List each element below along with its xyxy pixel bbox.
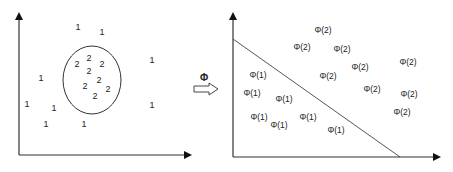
mapped-class-2-point: Φ(2)	[363, 84, 380, 94]
class-1-point: 1	[43, 119, 48, 129]
class-1-point: 1	[51, 103, 56, 113]
mapped-class-1-point: Φ(1)	[270, 120, 287, 130]
mapped-class-1-point: Φ(1)	[243, 88, 260, 98]
mapped-class-2-point: Φ(2)	[393, 107, 410, 117]
mapped-class-1-point: Φ(1)	[275, 94, 292, 104]
mapped-class-2-point: Φ(2)	[319, 71, 336, 81]
mapped-class-1-point: Φ(1)	[250, 112, 267, 122]
class-1-point: 1	[38, 73, 43, 83]
class-2-point: 2	[86, 53, 91, 63]
feature-space-panel: Φ(1)Φ(1)Φ(1)Φ(1)Φ(1)Φ(1)Φ(1)Φ(2)Φ(2)Φ(2)…	[233, 14, 439, 157]
left-points-group: 11111111122222222	[24, 22, 154, 129]
class-1-point: 1	[24, 99, 29, 109]
input-space-panel: 11111111122222222	[19, 14, 190, 155]
class-2-point: 2	[82, 81, 87, 91]
class-1-point: 1	[99, 27, 104, 37]
mapped-class-2-point: Φ(2)	[333, 44, 350, 54]
class-1-point: 1	[75, 22, 80, 32]
class-2-point: 2	[99, 59, 104, 69]
phi-transform-arrow: Φ	[194, 72, 218, 95]
mapped-class-1-point: Φ(1)	[299, 112, 316, 122]
class-2-point: 2	[92, 91, 97, 101]
mapped-class-1-point: Φ(1)	[327, 125, 344, 135]
class-2-point: 2	[74, 59, 79, 69]
mapped-class-2-point: Φ(2)	[351, 62, 368, 72]
right-points-group: Φ(1)Φ(1)Φ(1)Φ(1)Φ(1)Φ(1)Φ(1)Φ(2)Φ(2)Φ(2)…	[243, 25, 417, 135]
mapped-class-2-point: Φ(2)	[293, 42, 310, 52]
class-1-point: 1	[149, 55, 154, 65]
class-2-point: 2	[105, 84, 110, 94]
nonlinear-boundary-ellipse	[63, 46, 121, 114]
kernel-mapping-diagram: 11111111122222222 Φ Φ(1)Φ(1)Φ(1)Φ(1)Φ(1)…	[0, 0, 453, 172]
phi-label: Φ	[200, 72, 208, 83]
mapped-class-2-point: Φ(2)	[399, 57, 416, 67]
mapped-class-1-point: Φ(1)	[249, 70, 266, 80]
hollow-arrow-icon	[194, 83, 218, 95]
class-2-point: 2	[96, 75, 101, 85]
class-2-point: 2	[86, 66, 91, 76]
class-1-point: 1	[81, 119, 86, 129]
mapped-class-2-point: Φ(2)	[314, 25, 331, 35]
mapped-class-2-point: Φ(2)	[400, 89, 417, 99]
class-1-point: 1	[149, 100, 154, 110]
